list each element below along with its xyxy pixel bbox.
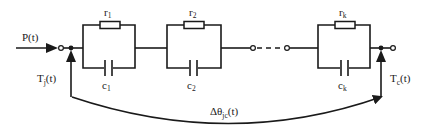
terminal-open-a (251, 46, 256, 51)
resistor-r2-icon (184, 22, 204, 29)
r1-label: r1 (104, 6, 112, 20)
resistor-rk-icon (335, 22, 355, 29)
input-label: P(t) (22, 31, 39, 44)
output-terminal-open (391, 46, 396, 51)
case-node-dot (379, 46, 384, 51)
input-power: P(t) (16, 31, 58, 53)
rc-stage-1: r1 c1 (83, 6, 135, 93)
r2-label: r2 (189, 6, 197, 20)
input-arrow-icon (46, 43, 58, 53)
ck-label: ck (338, 79, 347, 93)
junction-node-dot (69, 46, 74, 51)
rk-label: rk (339, 6, 347, 20)
input-terminal-open (59, 46, 64, 51)
temperature-difference: Δθjc(t) (72, 97, 381, 124)
stage1-wires (83, 25, 135, 68)
delta-label: Δθjc(t) (210, 105, 238, 120)
stage2-wires (167, 25, 221, 68)
terminal-open-b (285, 46, 290, 51)
c1-label: c1 (102, 79, 111, 93)
tc-arrow-icon (376, 50, 386, 62)
resistor-r1-icon (100, 22, 120, 29)
thermal-rc-diagram: P(t) Tj(t) r1 c1 r2 c2 rk (0, 0, 425, 133)
tc-label: Tc(t) (390, 72, 411, 87)
rc-stage-2: r2 c2 (167, 6, 221, 93)
c2-label: c2 (187, 79, 196, 93)
tj-label: Tj(t) (37, 72, 57, 87)
tj-arrow-icon (66, 50, 76, 62)
stagek-wires (318, 25, 370, 68)
junction-temperature: Tj(t) (37, 50, 76, 97)
case-temperature: Tc(t) (376, 50, 411, 97)
rc-stage-k: rk ck (318, 6, 370, 93)
